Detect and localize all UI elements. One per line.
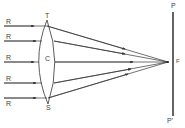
- refracted-rays: [47, 26, 168, 98]
- ray-label: R: [6, 100, 11, 107]
- lens-shape: [39, 20, 55, 104]
- ray-label: R: [6, 18, 11, 25]
- ray-label: R: [6, 54, 11, 61]
- ray-label: R: [6, 75, 11, 82]
- lens-diagram: R R R R R T C S F P P': [0, 0, 185, 128]
- focus-label: F: [176, 58, 180, 64]
- lens-bottom-label: S: [46, 104, 51, 111]
- diagram-canvas: [0, 0, 185, 128]
- lens-top-label: T: [45, 12, 49, 19]
- ray-label: R: [6, 33, 11, 40]
- lens-center-label: C: [45, 55, 50, 62]
- screen-bottom-label: P': [167, 117, 173, 124]
- focus-point: [167, 61, 169, 63]
- screen-top-label: P: [171, 2, 176, 9]
